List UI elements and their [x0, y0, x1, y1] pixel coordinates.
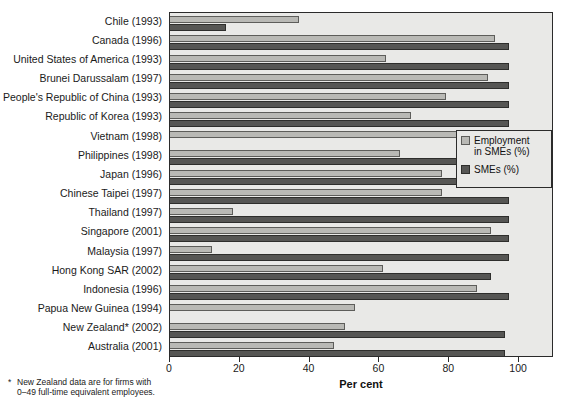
bar-group: [170, 320, 552, 339]
category-label: Australia (2001): [88, 341, 162, 352]
x-tick-label: 100: [509, 362, 527, 374]
category-label: Papua New Guinea (1994): [38, 303, 162, 314]
dark-gray-swatch-icon: [461, 165, 470, 174]
bar-group: [170, 301, 552, 320]
bar-employment-in-smes: [170, 265, 383, 272]
category-label: Philippines (1998): [78, 150, 162, 161]
category-label: Republic of Korea (1993): [45, 111, 162, 122]
category-label: New Zealand* (2002): [63, 322, 162, 333]
bar-employment-in-smes: [170, 35, 495, 42]
light-gray-swatch-icon: [461, 136, 470, 145]
bar-group: [170, 262, 552, 281]
x-tick-label: 0: [166, 362, 172, 374]
x-axis-tick-labels: 020406080100: [169, 362, 553, 376]
category-label: Brunei Darussalam (1997): [39, 73, 162, 84]
category-label: People's Republic of China (1993): [3, 92, 162, 103]
bar-smes: [170, 254, 509, 261]
bar-smes: [170, 43, 509, 50]
bar-chart: Chile (1993)Canada (1996)United States o…: [0, 0, 574, 411]
category-label: Vietnam (1998): [90, 131, 162, 142]
category-label: United States of America (1993): [13, 54, 162, 65]
category-label: Thailand (1997): [88, 207, 162, 218]
bar-employment-in-smes: [170, 208, 233, 215]
bar-group: [170, 205, 552, 224]
bar-group: [170, 186, 552, 205]
bar-employment-in-smes: [170, 93, 446, 100]
legend-label-smes: SMEs (%): [474, 164, 519, 175]
bar-smes: [170, 24, 226, 31]
bar-group: [170, 32, 552, 51]
legend-entry-smes: SMEs (%): [461, 164, 548, 175]
category-label: Malaysia (1997): [87, 246, 162, 257]
bar-smes: [170, 197, 509, 204]
bar-smes: [170, 350, 505, 357]
bar-smes: [170, 235, 509, 242]
footnote-text: New Zealand data are for firms with 0–49…: [8, 377, 208, 397]
bar-employment-in-smes: [170, 323, 345, 330]
category-label: Chinese Taipei (1997): [60, 188, 162, 199]
category-label: Chile (1993): [105, 16, 162, 27]
bar-smes: [170, 101, 509, 108]
x-tick-label: 20: [233, 362, 245, 374]
category-label: Canada (1996): [92, 35, 162, 46]
bar-group: [170, 339, 552, 357]
bar-employment-in-smes: [170, 246, 212, 253]
legend-label-employment: Employment in SMEs (%): [474, 135, 530, 157]
bar-employment-in-smes: [170, 112, 411, 119]
category-label: Japan (1996): [100, 169, 162, 180]
bar-smes: [170, 216, 509, 223]
x-tick-label: 60: [373, 362, 385, 374]
footnote: * New Zealand data are for firms with 0–…: [8, 377, 208, 397]
bar-smes: [170, 63, 509, 70]
footnote-line2: 0–49 full-time equivalent employees.: [17, 387, 155, 397]
bar-group: [170, 51, 552, 70]
x-tick-label: 40: [303, 362, 315, 374]
category-label: Indonesia (1996): [83, 284, 162, 295]
bar-employment-in-smes: [170, 131, 467, 138]
bar-smes: [170, 331, 505, 338]
bar-employment-in-smes: [170, 285, 477, 292]
bar-group: [170, 109, 552, 128]
bar-employment-in-smes: [170, 150, 400, 157]
footnote-marker: *: [8, 377, 11, 387]
x-tick-label: 80: [442, 362, 454, 374]
footnote-line1: New Zealand data are for firms with: [17, 377, 151, 387]
bar-group: [170, 71, 552, 90]
bar-employment-in-smes: [170, 55, 386, 62]
category-label: Singapore (2001): [81, 226, 162, 237]
bar-group: [170, 13, 552, 32]
bar-group: [170, 243, 552, 262]
legend: Employment in SMEs (%) SMEs (%): [456, 130, 552, 188]
bar-smes: [170, 82, 509, 89]
category-axis-labels: Chile (1993)Canada (1996)United States o…: [0, 12, 165, 357]
bar-employment-in-smes: [170, 342, 334, 349]
category-label: Hong Kong SAR (2002): [52, 265, 162, 276]
bar-group: [170, 90, 552, 109]
x-axis-title: Per cent: [169, 378, 553, 390]
bar-smes: [170, 293, 509, 300]
bar-smes: [170, 273, 491, 280]
legend-entry-employment: Employment in SMEs (%): [461, 135, 548, 157]
bar-smes: [170, 120, 509, 127]
bar-employment-in-smes: [170, 16, 299, 23]
bar-employment-in-smes: [170, 304, 355, 311]
bar-group: [170, 224, 552, 243]
bar-employment-in-smes: [170, 170, 442, 177]
legend-label-employment-line2: in SMEs (%): [474, 146, 530, 157]
bar-employment-in-smes: [170, 74, 488, 81]
bar-employment-in-smes: [170, 189, 442, 196]
bar-group: [170, 281, 552, 300]
bar-employment-in-smes: [170, 227, 491, 234]
legend-label-employment-line1: Employment: [474, 135, 530, 146]
